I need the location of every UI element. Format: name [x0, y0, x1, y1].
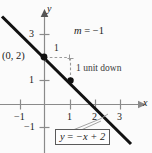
y-axis	[40, 9, 50, 153]
y-tick-label-1: 1	[29, 75, 34, 85]
equation-rhs: −x + 2	[76, 131, 105, 142]
equation-box: y = −x + 2	[55, 129, 110, 145]
point-label-y-intercept: (0, 2)	[2, 51, 25, 62]
slope-step-indicator	[45, 55, 74, 81]
slope-value: −1	[93, 25, 104, 36]
plotted-line	[2, 17, 131, 145]
graph-figure: y x −1 1 2 3 3 1 −1 (0, 2) m = −1 1 1 un…	[0, 0, 152, 153]
point-second	[67, 77, 73, 83]
x-tick-label-1: 1	[67, 112, 72, 122]
x-tick-label-3: 3	[117, 112, 122, 122]
run-label: 1	[54, 44, 59, 54]
y-axis-label: y	[47, 4, 51, 14]
slope-label: m = −1	[74, 26, 104, 37]
x-axis	[0, 100, 146, 110]
slope-variable: m	[74, 25, 82, 36]
x-tick-label-2: 2	[92, 112, 97, 122]
rise-label: 1 unit down	[76, 64, 121, 74]
x-axis-label: x	[143, 98, 147, 108]
point-y-intercept	[41, 54, 48, 61]
y-tick-label-3: 3	[29, 29, 34, 39]
y-tick-label--1: −1	[24, 122, 35, 132]
